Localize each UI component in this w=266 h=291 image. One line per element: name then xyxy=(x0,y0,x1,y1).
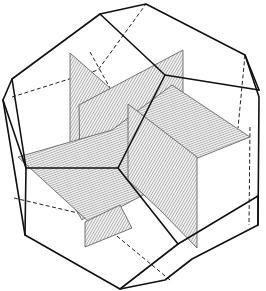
polyhedron-diagram xyxy=(0,0,266,291)
diagram-stage xyxy=(0,0,266,291)
hatched-planes xyxy=(18,50,250,248)
